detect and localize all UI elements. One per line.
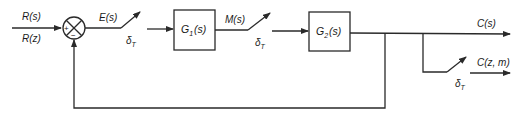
input-label-rs: R(s) [22,11,41,22]
manipulated-signal-label: M(s) [225,14,245,25]
output-label: C(s) [477,18,496,29]
sampled-output-label: C(z, m) [477,57,510,68]
block-g1-label: G1(s) [181,23,206,37]
summing-junction: + − [63,17,85,40]
sampler-label-3: δT [455,78,466,91]
output-branch-line [423,33,447,72]
output-arrow [350,33,510,34]
sampler-switch-1 [121,12,140,28]
input-label-rz: R(z) [22,33,41,44]
error-signal-label: E(s) [99,12,117,23]
sampler-switch-3 [447,57,466,72]
sampler-label-1: δT [126,35,137,48]
plus-sign: + [64,24,69,33]
sampler-switch-2 [248,13,270,30]
block-g2: G2(s) [309,12,350,51]
minus-sign: − [71,31,76,40]
block-g1: G1(s) [174,10,215,50]
block-g2-label: G2(s) [316,25,341,39]
block-diagram: R(s) R(z) + − E(s) δT G1(s) M(s) δT G2(s… [0,0,525,118]
sampler-label-2: δT [255,37,266,50]
